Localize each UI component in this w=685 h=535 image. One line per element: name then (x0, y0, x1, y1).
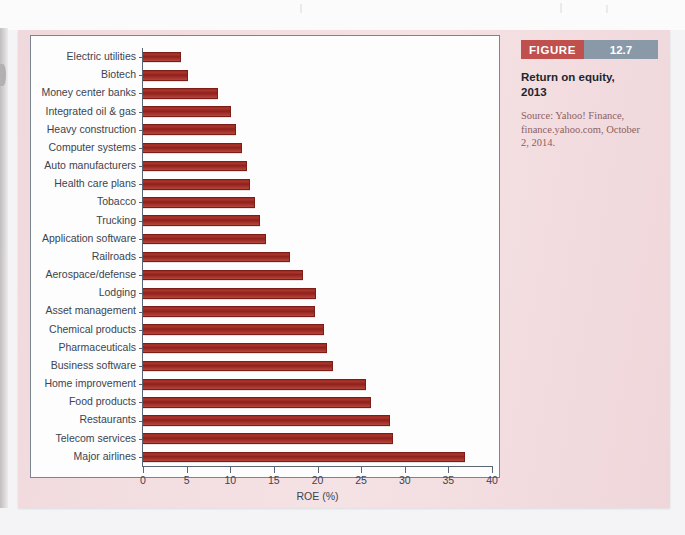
category-label: Auto manufacturers (44, 156, 136, 174)
bar-row: Biotech (143, 66, 492, 84)
bar-row: Aerospace/defense (143, 266, 492, 284)
bar-row: Restaurants (143, 411, 492, 429)
x-axis-tick-label: 35 (443, 474, 455, 486)
category-label: Computer systems (48, 138, 136, 156)
scan-artifact (606, 5, 608, 13)
bar-row: Asset management (143, 302, 492, 320)
bar (143, 234, 266, 245)
bar-row: Computer systems (143, 139, 492, 157)
x-axis-tick (318, 467, 319, 473)
bar (143, 70, 188, 81)
bar-row: Railroads (143, 248, 492, 266)
category-label: Money center banks (41, 83, 136, 101)
scan-edge-shadow (0, 28, 8, 508)
category-label: Lodging (99, 283, 136, 301)
category-label: Pharmaceuticals (58, 338, 136, 356)
x-axis-tick (405, 467, 406, 473)
bar-row: Lodging (143, 284, 492, 302)
bar (143, 452, 465, 463)
bar (143, 52, 181, 63)
category-label: Major airlines (74, 447, 136, 465)
category-label: Electric utilities (67, 47, 136, 65)
bar-row: Money center banks (143, 84, 492, 102)
bar (143, 343, 327, 354)
category-label: Tobacco (97, 192, 136, 210)
bar-row: Tobacco (143, 193, 492, 211)
bar (143, 306, 315, 317)
bar (143, 252, 290, 263)
bar-row: Integrated oil & gas (143, 103, 492, 121)
x-axis-tick (361, 467, 362, 473)
x-axis-tick (230, 467, 231, 473)
page-top-margin (0, 0, 685, 30)
bar-row: Chemical products (143, 321, 492, 339)
figure-tag: FIGURE 12.7 (521, 40, 658, 59)
bar-row: Major airlines (143, 448, 492, 466)
x-axis-tick-label: 5 (184, 474, 190, 486)
plot-area: Electric utilitiesBiotechMoney center ba… (143, 48, 492, 466)
bar (143, 143, 242, 154)
category-label: Trucking (96, 211, 136, 229)
category-label: Telecom services (55, 429, 136, 447)
bar-row: Pharmaceuticals (143, 339, 492, 357)
category-label: Aerospace/defense (46, 265, 136, 283)
bar (143, 397, 371, 408)
bar-row: Electric utilities (143, 48, 492, 66)
bar-row: Telecom services (143, 430, 492, 448)
x-axis-tick-label: 25 (355, 474, 367, 486)
category-label: Food products (69, 392, 136, 410)
bar-row: Business software (143, 357, 492, 375)
bar (143, 215, 260, 226)
x-axis-tick-label: 30 (399, 474, 411, 486)
bar (143, 270, 303, 281)
category-label: Chemical products (49, 320, 136, 338)
page-edge-notch (0, 64, 6, 86)
category-label: Home improvement (44, 374, 136, 392)
x-axis-tick (274, 467, 275, 473)
scanned-page-background: Electric utilitiesBiotechMoney center ba… (0, 0, 685, 535)
figure-caption-block: FIGURE 12.7 Return on equity, 2013 Sourc… (521, 40, 661, 150)
x-axis-tick (492, 467, 493, 473)
figure-title: Return on equity, 2013 (521, 70, 641, 100)
category-label: Business software (51, 356, 136, 374)
category-label: Heavy construction (47, 120, 136, 138)
x-axis-tick (143, 467, 144, 473)
scan-artifact (560, 3, 562, 13)
x-axis-tick-label: 0 (140, 474, 146, 486)
figure-tag-label: FIGURE (521, 40, 584, 59)
scan-artifact (300, 4, 302, 13)
x-axis-tick-label: 15 (268, 474, 280, 486)
category-label: Biotech (101, 65, 136, 83)
bar (143, 415, 390, 426)
chart-container: Electric utilitiesBiotechMoney center ba… (30, 35, 500, 478)
x-axis-tick-label: 20 (312, 474, 324, 486)
category-label: Asset management (46, 301, 136, 319)
category-label: Restaurants (79, 410, 136, 428)
bar (143, 179, 250, 190)
figure-source-note: Source: Yahoo! Finance, finance.yahoo.co… (521, 109, 641, 150)
bar (143, 288, 316, 299)
category-label: Integrated oil & gas (46, 102, 136, 120)
bar-row: Heavy construction (143, 121, 492, 139)
bar (143, 433, 393, 444)
bar (143, 106, 231, 117)
x-axis-tick-label: 10 (224, 474, 236, 486)
bar (143, 88, 218, 99)
bar-row: Auto manufacturers (143, 157, 492, 175)
bar (143, 124, 236, 135)
bar-row: Home improvement (143, 375, 492, 393)
bar (143, 161, 247, 172)
bar-row: Application software (143, 230, 492, 248)
bar (143, 324, 324, 335)
x-axis-tick (448, 467, 449, 473)
x-axis-tick (187, 467, 188, 473)
bar-row: Health care plans (143, 175, 492, 193)
category-label: Application software (42, 229, 136, 247)
bar (143, 379, 366, 390)
bar (143, 361, 333, 372)
bar-row: Food products (143, 393, 492, 411)
figure-tag-number: 12.7 (584, 40, 658, 59)
x-axis-title: ROE (%) (143, 490, 492, 502)
category-label: Health care plans (54, 174, 136, 192)
category-label: Railroads (92, 247, 136, 265)
